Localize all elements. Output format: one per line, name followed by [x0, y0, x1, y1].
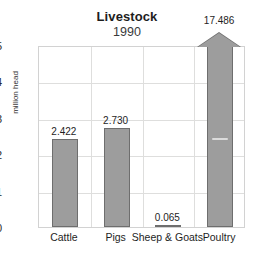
gridline-vertical	[194, 47, 195, 227]
bar-value-label: 0.065	[155, 212, 180, 223]
livestock-bar-chart: Livestock 1990 million head 012345 Cattl…	[0, 0, 254, 255]
y-axis-tick-label: 4	[0, 76, 2, 88]
x-axis-tick-label: Poultry	[203, 231, 236, 243]
axis-break-mark-icon	[212, 138, 227, 140]
bar-poultry	[207, 45, 233, 227]
y-axis-title: million head	[11, 58, 20, 128]
bar-value-label: 17.486	[204, 15, 235, 26]
bar-pigs	[104, 128, 130, 227]
bar-overflow-arrow-icon	[198, 33, 240, 47]
y-axis-tick-label: 1	[0, 186, 2, 198]
bar-sheep-goats	[155, 225, 181, 227]
x-axis-tick-label: Pigs	[105, 231, 125, 243]
bar-value-label: 2.730	[103, 115, 128, 126]
y-axis-tick-label: 0	[0, 222, 2, 234]
x-axis-tick-label: Cattle	[50, 231, 77, 243]
y-axis-tick-label: 3	[0, 113, 2, 125]
gridline-vertical	[91, 47, 92, 227]
bar-value-label: 2.422	[51, 126, 76, 137]
plot-area	[38, 46, 245, 228]
gridline-vertical	[143, 47, 144, 227]
bar-cattle	[52, 139, 78, 227]
y-axis-tick-label: 2	[0, 149, 2, 161]
y-axis-tick-label: 5	[0, 40, 2, 52]
x-axis-tick-label: Sheep & Goats	[132, 231, 203, 243]
